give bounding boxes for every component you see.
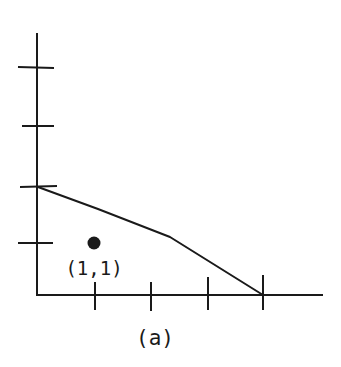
point-marker (88, 237, 101, 250)
figure-canvas: (1,1) (a) (0, 0, 341, 367)
y-tick-4 (18, 67, 54, 68)
figure-caption: (a) (136, 326, 174, 350)
point-label: (1,1) (65, 257, 122, 279)
